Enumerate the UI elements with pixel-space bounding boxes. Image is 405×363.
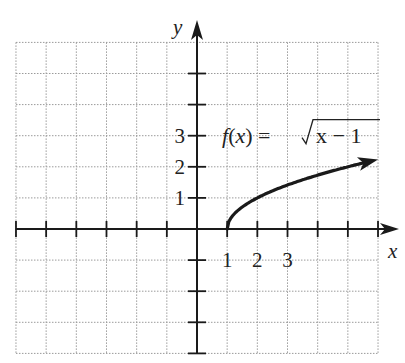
y-tick-label: 3 bbox=[175, 124, 186, 148]
x-axis-label: x bbox=[387, 239, 398, 263]
function-arg: x bbox=[234, 123, 245, 148]
y-tick-label: 2 bbox=[175, 155, 186, 179]
function-curve bbox=[227, 162, 367, 229]
function-radicand: x − 1 bbox=[316, 123, 361, 148]
x-tick-label: 1 bbox=[222, 248, 233, 272]
axes bbox=[16, 20, 399, 353]
function-label: f(x) = x − 1 bbox=[222, 120, 380, 148]
function-label-prefix: f(x) = bbox=[222, 123, 270, 148]
y-axis-label: y bbox=[171, 15, 183, 39]
x-tick-label: 2 bbox=[252, 248, 263, 272]
x-tick-label: 3 bbox=[282, 248, 293, 272]
chart-canvas: 123123 x y f(x) = x − 1 bbox=[0, 0, 405, 363]
function-paren-close: ) = bbox=[245, 123, 270, 148]
curve-layer bbox=[227, 157, 378, 229]
y-tick-label: 1 bbox=[175, 186, 186, 210]
function-paren-open: ( bbox=[228, 123, 235, 148]
